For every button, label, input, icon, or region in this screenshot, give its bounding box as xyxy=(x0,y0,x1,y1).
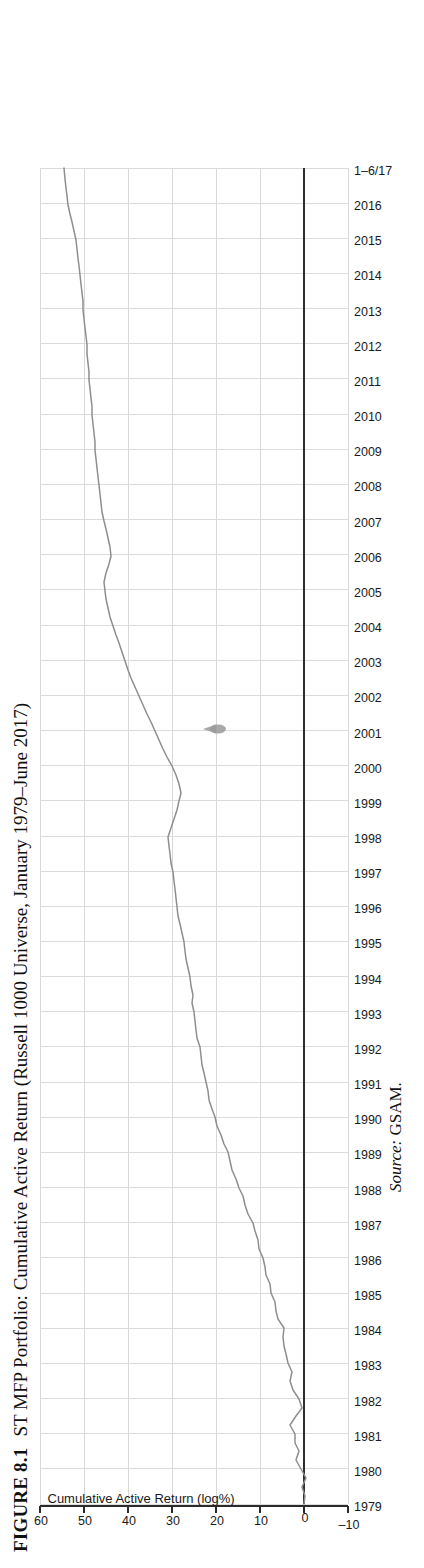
xtick-label-text: 2006 xyxy=(354,551,382,565)
figure-caption-text: ST MFP Portfolio: Cumulative Active Retu… xyxy=(10,703,31,1437)
figure-page: FIGURE 8.1ST MFP Portfolio: Cumulative A… xyxy=(0,0,424,1568)
chart-plot-area: 60 50 40 30 20 10 0 –10 Cumulative Activ… xyxy=(40,168,348,1504)
xtick-label-text: 1979 xyxy=(354,1500,382,1514)
xtick-label-text: 2012 xyxy=(354,340,382,354)
xtick-label-text: 2009 xyxy=(354,445,382,459)
xtick-label-text: 2007 xyxy=(354,516,382,530)
xtick-label-text: 1980 xyxy=(354,1465,382,1479)
xtick-label-text: 2008 xyxy=(354,480,382,494)
xtick-label-text: 1995 xyxy=(354,937,382,951)
xtick-label-text: 1982 xyxy=(354,1395,382,1409)
xtick-label-text: 1993 xyxy=(354,1008,382,1022)
xtick-label-text: 2011 xyxy=(354,375,381,389)
ytick-label-60: 60 xyxy=(31,1514,49,1544)
figure-number: FIGURE 8.1 xyxy=(10,1448,31,1552)
xtick-label-text: 2003 xyxy=(354,656,382,670)
xtick-label-text: 2014 xyxy=(354,269,382,283)
source-label: Source: xyxy=(386,1140,405,1192)
xtick-label-text: 1987 xyxy=(354,1219,382,1233)
xtick-label-text: 1994 xyxy=(354,973,382,987)
ytick-label-30: 30 xyxy=(163,1514,181,1544)
xtick-label-text: 1983 xyxy=(354,1359,382,1373)
ytick-label-20: 20 xyxy=(207,1514,225,1544)
xtick-label-text: 1989 xyxy=(354,1148,382,1162)
xtick-label-text: 2010 xyxy=(354,410,382,424)
xtick-label-text: 1985 xyxy=(354,1289,382,1303)
xtick-label-text: 1998 xyxy=(354,832,382,846)
xtick-label-text: 2005 xyxy=(354,586,382,600)
year-gridlines xyxy=(40,168,348,1504)
xtick-label-text: 2001 xyxy=(354,727,382,741)
xtick-label-text: 1996 xyxy=(354,902,382,916)
xtick-label-text: 1–6/17 xyxy=(354,164,392,178)
xtick-label-text: 1991 xyxy=(354,1078,382,1092)
xtick-label-text: 2004 xyxy=(354,621,382,635)
ytick-label-minus10: –10 xyxy=(339,1514,357,1546)
source-note: Source: GSAM. xyxy=(386,1082,406,1192)
ytick-label-40: 40 xyxy=(119,1514,137,1544)
ink-smudge-tail xyxy=(203,725,216,734)
xtick-label-text: 1992 xyxy=(354,1043,382,1057)
xtick-label-text: 1986 xyxy=(354,1254,382,1268)
xtick-label-text: 2015 xyxy=(354,234,382,248)
xtick-label-text: 1990 xyxy=(354,1113,382,1127)
xtick-label-text: 2002 xyxy=(354,691,382,705)
xtick-label-text: 1999 xyxy=(354,797,382,811)
y-axis-title: Cumulative Active Return (log%) xyxy=(48,1491,208,1506)
xtick-label-text: 2000 xyxy=(354,762,382,776)
ytick-label-50: 50 xyxy=(75,1514,93,1544)
cumulative-active-return-chart xyxy=(40,168,348,1504)
xtick-label-text: 1984 xyxy=(354,1324,382,1338)
source-value: GSAM. xyxy=(386,1082,405,1135)
ytick-label-0: 0 xyxy=(295,1514,313,1544)
ytick-label-10: 10 xyxy=(251,1514,269,1544)
xtick-label-text: 2013 xyxy=(354,305,382,319)
xtick-label-text: 2016 xyxy=(354,199,382,213)
xtick-label-text: 1997 xyxy=(354,867,382,881)
figure-caption: FIGURE 8.1ST MFP Portfolio: Cumulative A… xyxy=(10,703,32,1552)
xtick-label-text: 1988 xyxy=(354,1184,382,1198)
xtick-label-text: 1981 xyxy=(354,1430,382,1444)
